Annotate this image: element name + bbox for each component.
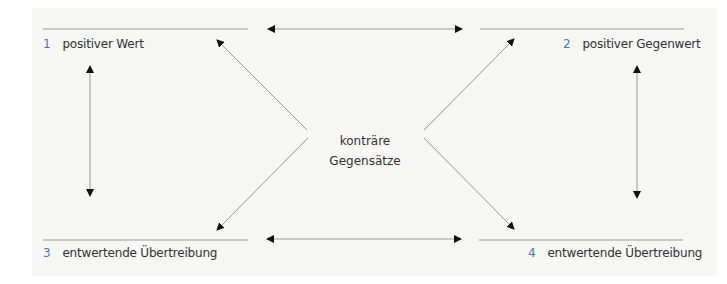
node-number: 4 [528,246,535,260]
node-devaluing-exaggeration-1: 3entwertende Übertreibung [43,246,217,260]
arrow-center-to-2 [424,39,514,130]
node-positive-counter-value: 2positiver Gegenwert [563,37,701,51]
node-devaluing-exaggeration-2: 4entwertende Übertreibung [528,246,702,260]
arrow-center-to-1 [217,40,307,130]
node-label: positiver Gegenwert [582,37,700,51]
node-label: entwertende Übertreibung [62,246,217,260]
node-label: positiver Wert [62,37,143,51]
center-label-line1: konträre [318,131,412,151]
node-number: 3 [43,246,50,260]
node-number: 1 [43,37,50,51]
arrow-center-to-4 [424,138,514,229]
node-positive-value: 1positiver Wert [43,37,144,51]
node-label: entwertende Übertreibung [547,246,702,260]
center-label: konträre Gegensätze [318,131,412,171]
node-number: 2 [563,37,570,51]
center-label-line2: Gegensätze [318,151,412,171]
arrow-center-to-3 [217,138,308,230]
